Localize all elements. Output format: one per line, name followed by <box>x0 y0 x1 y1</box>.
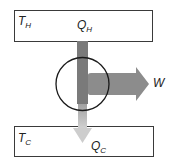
hot-reservoir-label: TH <box>18 15 31 30</box>
heat-in-flow-bar <box>77 41 88 104</box>
cold-reservoir-label: TC <box>18 132 31 147</box>
heat-out-arrow <box>73 100 92 143</box>
work-label: W <box>153 77 164 89</box>
heat-out-label: QC <box>91 140 106 155</box>
heat-in-label: QH <box>77 19 92 34</box>
heat-engine-diagram: TH QH W TC QC <box>0 0 170 165</box>
work-arrow <box>88 67 149 101</box>
